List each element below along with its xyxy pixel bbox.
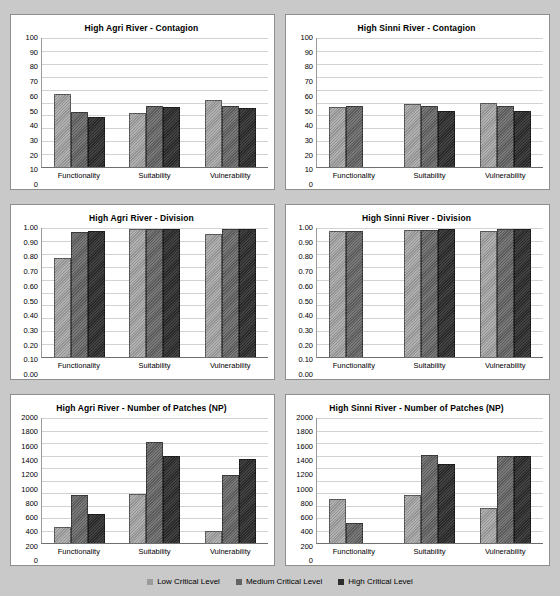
legend-item-medium[interactable]: Medium Critical Level (236, 577, 322, 586)
y-axis-tick-label: 1200 (21, 471, 38, 479)
bar-low[interactable] (329, 499, 346, 543)
chart-panel-agri-np: High Agri River - Number of Patches (NP)… (10, 394, 275, 566)
bar-low[interactable] (205, 100, 222, 167)
x-axis-tick-label: Suitability (392, 171, 468, 185)
bar-low[interactable] (129, 494, 146, 543)
y-axis: 2000180016001400120010008006004002000 (290, 418, 316, 561)
x-axis-tick-label: Vulnerability (467, 171, 543, 185)
y-axis-tick-label: 80 (305, 64, 313, 72)
bar-high[interactable] (163, 456, 180, 543)
bar-high[interactable] (239, 229, 256, 357)
chart-title: High Sinni River - Division (290, 210, 543, 228)
bar-low[interactable] (404, 104, 421, 167)
plot-area-outer: FunctionalitySuitabilityVulnerability (316, 228, 543, 375)
bar-medium[interactable] (146, 229, 163, 357)
y-axis-tick-label: 40 (305, 122, 313, 130)
bar-medium[interactable] (497, 229, 514, 357)
bar-high[interactable] (438, 464, 455, 543)
bar-medium[interactable] (346, 523, 363, 543)
legend-item-high[interactable]: High Critical Level (338, 577, 412, 586)
bar-low[interactable] (329, 231, 346, 357)
bar-high[interactable] (514, 456, 531, 543)
bar-low[interactable] (129, 229, 146, 357)
bar-low[interactable] (480, 508, 497, 543)
bar-medium[interactable] (146, 106, 163, 167)
bar-high[interactable] (88, 231, 105, 357)
bar-medium[interactable] (346, 231, 363, 357)
bar-high[interactable] (438, 229, 455, 357)
y-axis-tick-label: 600 (300, 514, 313, 522)
bar-medium[interactable] (421, 455, 438, 543)
bar-low[interactable] (329, 107, 346, 167)
chart-panel-agri-contagion: High Agri River - Contagion1009080706050… (10, 14, 275, 190)
bar-high[interactable] (239, 459, 256, 543)
bar-group (468, 38, 543, 167)
bar-medium[interactable] (146, 442, 163, 543)
x-axis-tick-label: Functionality (316, 547, 392, 561)
bar-low[interactable] (205, 531, 222, 543)
bar-high[interactable] (514, 111, 531, 167)
bar-low[interactable] (54, 258, 71, 357)
bar-medium[interactable] (71, 495, 88, 543)
bar-high[interactable] (239, 108, 256, 167)
y-axis: 1009080706050403020100 (15, 38, 41, 185)
bar-low[interactable] (404, 230, 421, 357)
bar-low[interactable] (205, 234, 222, 357)
y-axis-tick-label: 0.80 (298, 254, 313, 262)
bar-low[interactable] (54, 94, 71, 167)
y-axis-tick-label: 1400 (21, 457, 38, 465)
x-axis-tick-label: Vulnerability (192, 171, 268, 185)
y-axis-tick-label: 70 (305, 78, 313, 86)
y-axis-tick-label: 0.30 (298, 327, 313, 335)
bar-medium[interactable] (497, 106, 514, 167)
y-axis-tick-label: 80 (30, 64, 38, 72)
bar-medium[interactable] (71, 112, 88, 167)
legend-label: High Critical Level (348, 577, 412, 586)
y-axis-tick-label: 1.00 (298, 224, 313, 232)
y-axis-tick-label: 0 (309, 181, 313, 189)
plot-wrapper: 2000180016001400120010008006004002000Fun… (15, 418, 268, 561)
y-axis-tick-label: 0.10 (23, 357, 38, 365)
bar-high[interactable] (88, 117, 105, 167)
y-axis-tick-label: 30 (30, 137, 38, 145)
bar-group (117, 228, 192, 357)
bar-high[interactable] (514, 229, 531, 357)
bar-medium[interactable] (222, 229, 239, 357)
y-axis-tick-label: 100 (300, 34, 313, 42)
bar-high[interactable] (438, 111, 455, 167)
legend-label: Low Critical Level (157, 577, 220, 586)
legend-item-low[interactable]: Low Critical Level (147, 577, 220, 586)
bar-group (468, 228, 543, 357)
bar-group (117, 38, 192, 167)
bar-medium[interactable] (71, 232, 88, 357)
y-axis-tick-label: 2000 (21, 414, 38, 422)
bar-low[interactable] (404, 495, 421, 543)
bar-low[interactable] (54, 527, 71, 543)
bar-high[interactable] (163, 107, 180, 167)
y-axis-tick-label: 1.00 (23, 224, 38, 232)
bar-medium[interactable] (222, 106, 239, 167)
bar-low[interactable] (129, 113, 146, 167)
bar-medium[interactable] (346, 106, 363, 167)
y-axis-tick-label: 0.10 (298, 357, 313, 365)
bar-group (117, 418, 192, 543)
plot-area (41, 418, 268, 544)
bar-high[interactable] (163, 229, 180, 357)
bar-high[interactable] (88, 514, 105, 543)
y-axis-tick-label: 1000 (296, 486, 313, 494)
bar-medium[interactable] (421, 230, 438, 357)
bar-low[interactable] (480, 231, 497, 357)
bar-group (392, 228, 467, 357)
x-axis-labels: FunctionalitySuitabilityVulnerability (316, 358, 543, 375)
bar-medium[interactable] (222, 475, 239, 543)
plot-area (316, 38, 543, 168)
y-axis-tick-label: 30 (305, 137, 313, 145)
y-axis-tick-label: 0 (34, 181, 38, 189)
bar-group (42, 38, 117, 167)
bar-medium[interactable] (421, 106, 438, 167)
bar-groups (317, 418, 543, 543)
y-axis-tick-label: 0.00 (23, 371, 38, 379)
bar-medium[interactable] (497, 456, 514, 544)
bar-low[interactable] (480, 103, 497, 167)
y-axis-tick-label: 0.90 (23, 239, 38, 247)
